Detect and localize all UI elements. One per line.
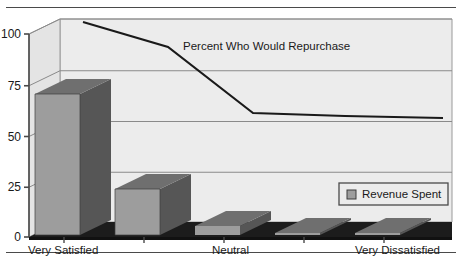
bar-1-front: [35, 94, 80, 235]
bar-3-front: [195, 226, 240, 235]
y-tick-label-50: 50: [8, 130, 22, 144]
x-tick-label-neutral: Neutral: [212, 244, 249, 256]
chart-figure: 100 75 50 25 0: [0, 0, 462, 265]
legend-swatch-revenue-spent: [347, 190, 356, 199]
plot-floor-front-edge: [29, 237, 452, 240]
y-tick-label-0: 0: [14, 230, 21, 244]
y-tick-label-25: 25: [8, 180, 22, 194]
bar-1: [35, 79, 111, 235]
x-tick-label-very-dissatisfied: Very Dissatisfied: [355, 244, 440, 256]
legend-label-revenue-spent: Revenue Spent: [362, 188, 442, 200]
line-series-annotation: Percent Who Would Repurchase: [183, 40, 350, 52]
y-tick-label-100: 100: [1, 27, 21, 41]
legend[interactable]: Revenue Spent: [339, 183, 448, 205]
bar-1-side: [80, 79, 111, 235]
bar-2-front: [115, 189, 160, 235]
y-tick-label-75: 75: [8, 79, 22, 93]
combination-chart-svg: 100 75 50 25 0: [0, 0, 462, 265]
x-tick-label-very-satisfied: Very Satisfied: [28, 244, 98, 256]
bar-4-front: [275, 233, 320, 235]
bar-5-front: [355, 233, 400, 235]
